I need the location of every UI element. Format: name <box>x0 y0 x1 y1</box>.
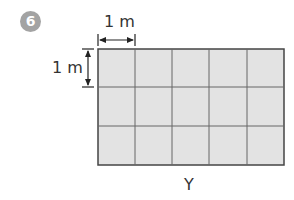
width-dimension-arrow-icon <box>98 34 135 46</box>
grid-rectangle-diagram <box>0 0 294 200</box>
height-dimension-arrow-icon <box>82 49 94 87</box>
diagram-caption: Y <box>184 177 194 193</box>
grid <box>98 49 284 165</box>
